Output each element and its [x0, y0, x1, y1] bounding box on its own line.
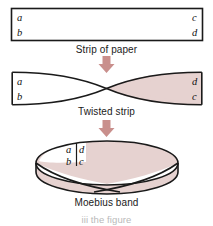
- twisted-label-bottom-right: c: [192, 92, 197, 103]
- caption-footer-cropped: iii the figure: [0, 214, 213, 226]
- strip-label-bottom-right: d: [192, 28, 197, 39]
- strip-label-bottom-left: b: [17, 28, 22, 39]
- caption-twisted-strip: Twisted strip: [0, 106, 213, 117]
- twisted-label-top-left: a: [17, 77, 22, 88]
- caption-strip-of-paper: Strip of paper: [0, 44, 213, 55]
- caption-moebius-band: Moebius band: [0, 197, 213, 208]
- twisted-label-bottom-left: b: [17, 92, 22, 103]
- moebius-label-seam-bottom-right: c: [79, 157, 84, 168]
- twisted-label-top-right: d: [192, 77, 197, 88]
- moebius-label-seam-top-right: d: [79, 145, 84, 156]
- arrow-twisted-to-moebius-icon: [99, 120, 115, 137]
- strip-label-top-left: a: [17, 13, 22, 24]
- strip-of-paper-rect: [12, 9, 203, 41]
- twisted-strip-diagram: [12, 72, 202, 105]
- moebius-label-seam-bottom-left: b: [66, 157, 71, 168]
- arrow-strip-to-twisted-icon: [99, 56, 115, 73]
- strip-label-top-right: c: [192, 13, 197, 24]
- strip-of-paper-diagram: [12, 9, 203, 41]
- moebius-label-seam-top-left: a: [66, 145, 71, 156]
- moebius-band-diagram: [36, 141, 178, 194]
